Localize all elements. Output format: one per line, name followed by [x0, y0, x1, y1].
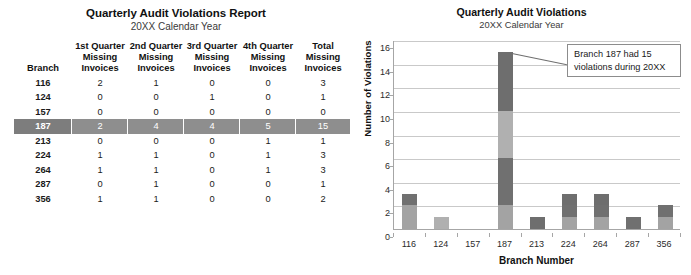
table-row: 28701001	[14, 177, 350, 192]
cell-total: 1	[296, 134, 350, 149]
cell-q2: 1	[128, 148, 184, 163]
header-line-2: Missing	[296, 52, 350, 63]
gridline	[394, 159, 680, 160]
cell-q1: 1	[72, 163, 128, 178]
x-axis-title: Branch Number	[393, 255, 680, 266]
cell-q3: 0	[184, 192, 240, 207]
cell-q4: 1	[240, 163, 296, 178]
cell-q3: 0	[184, 163, 240, 178]
cell-total: 15	[296, 119, 350, 134]
column-header-total: Total Missing Invoices	[296, 41, 350, 76]
x-tick-mark	[425, 233, 426, 237]
bar-356	[658, 205, 673, 229]
header-line-3: Invoices	[72, 63, 128, 74]
y-tick-label: 6	[354, 161, 390, 171]
table-header-row: Branch 1st Quarter Missing Invoices 2nd …	[14, 41, 350, 76]
header-line-1: Total	[296, 41, 350, 52]
cell-q3: 0	[184, 177, 240, 192]
bar-124	[434, 217, 449, 229]
cell-q1: 1	[72, 192, 128, 207]
cell-q1: 1	[72, 148, 128, 163]
cell-total: 0	[296, 105, 350, 120]
x-tick-mark	[521, 233, 522, 237]
y-tick-label: 14	[354, 67, 390, 77]
cell-total: 3	[296, 76, 350, 91]
column-header-q1: 1st Quarter Missing Invoices	[72, 41, 128, 76]
chart-subtitle: 20XX Calendar Year	[352, 20, 691, 30]
x-tick-label: 213	[529, 239, 544, 249]
gridline	[394, 136, 680, 137]
cell-total: 2	[296, 192, 350, 207]
x-tick-mark	[648, 233, 649, 237]
header-line-3: Invoices	[128, 63, 184, 74]
cell-q3: 0	[184, 148, 240, 163]
header-line-3: Invoices	[184, 63, 240, 74]
cell-branch: 124	[14, 90, 72, 105]
chart-title: Quarterly Audit Violations	[352, 6, 691, 18]
cell-q2: 1	[128, 76, 184, 91]
cell-branch: 157	[14, 105, 72, 120]
callout-line-2: violations during 20XX	[574, 61, 674, 74]
gridline	[394, 183, 680, 184]
bar-224	[562, 194, 577, 229]
plot-wrapper: Number of Violations 0246810121416 11612…	[352, 34, 691, 275]
header-line-1: 3rd Quarter	[184, 41, 240, 52]
header-line-2: Missing	[240, 52, 296, 63]
cell-q3: 0	[184, 76, 240, 91]
x-axis-labels: 116124157187213224264287356	[393, 233, 680, 247]
table-title: Quarterly Audit Violations Report	[0, 7, 352, 19]
cell-branch: 116	[14, 76, 72, 91]
bar-segment	[594, 194, 609, 206]
bar-segment	[498, 52, 513, 111]
header-line-3: Branch	[14, 63, 72, 74]
column-header-q4: 4th Quarter Missing Invoices	[240, 41, 296, 76]
x-tick-mark	[680, 233, 681, 237]
y-tick-label: 4	[354, 185, 390, 195]
cell-q3: 0	[184, 105, 240, 120]
cell-branch: 264	[14, 163, 72, 178]
gridline	[394, 41, 680, 42]
bar-segment	[658, 205, 673, 217]
cell-branch: 356	[14, 192, 72, 207]
x-tick-mark	[584, 233, 585, 237]
cell-q1: 2	[72, 119, 128, 134]
x-tick-label: 356	[657, 239, 672, 249]
bar-segment	[562, 194, 577, 206]
table-row: 22411013	[14, 148, 350, 163]
header-line-3: Invoices	[296, 63, 350, 74]
cell-q4: 0	[240, 177, 296, 192]
cell-q4: 0	[240, 90, 296, 105]
bar-segment	[498, 111, 513, 158]
y-tick-label: 12	[354, 90, 390, 100]
gridline	[394, 88, 680, 89]
cell-q2: 1	[128, 163, 184, 178]
cell-q4: 0	[240, 76, 296, 91]
header-line-2: Missing	[72, 52, 128, 63]
bar-segment	[658, 217, 673, 229]
chart-panel: Quarterly Audit Violations 20XX Calendar…	[352, 0, 691, 275]
bar-segment	[402, 194, 417, 206]
cell-q2: 1	[128, 177, 184, 192]
y-tick-label: 0	[354, 232, 390, 242]
cell-q2: 0	[128, 105, 184, 120]
bar-segment	[562, 205, 577, 217]
table-row: 35611002	[14, 192, 350, 207]
column-header-branch: Branch	[14, 41, 72, 76]
cell-q4: 0	[240, 105, 296, 120]
x-tick-label: 264	[593, 239, 608, 249]
cell-total: 1	[296, 177, 350, 192]
header-line-3: Invoices	[240, 63, 296, 74]
table-panel: Quarterly Audit Violations Report 20XX C…	[0, 0, 352, 275]
column-header-q2: 2nd Quarter Missing Invoices	[128, 41, 184, 76]
table-row: 11621003	[14, 76, 350, 91]
bar-187	[498, 52, 513, 229]
chart-annotation-callout: Branch 187 had 15 violations during 20XX	[567, 44, 681, 77]
bar-segment	[434, 217, 449, 229]
table-body: 1162100312400101157000001872445152130001…	[14, 76, 350, 207]
cell-q4: 5	[240, 119, 296, 134]
x-tick-mark	[489, 233, 490, 237]
gridline	[394, 206, 680, 207]
table-subtitle: 20XX Calendar Year	[0, 21, 352, 32]
cell-q4: 1	[240, 148, 296, 163]
bar-segment	[594, 205, 609, 217]
